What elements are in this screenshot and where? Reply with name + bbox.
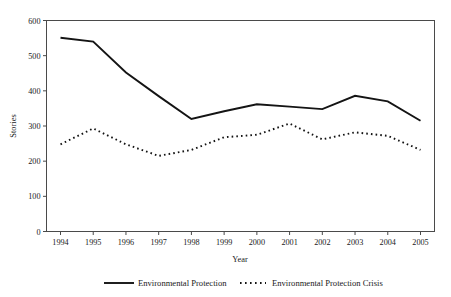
y-axis: 6005004003002001000 xyxy=(28,17,46,237)
x-axis-title: Year xyxy=(232,255,248,264)
series-environmental-protection-crisis xyxy=(61,124,421,156)
x-tick-label: 1995 xyxy=(85,238,101,247)
x-tick-label: 1994 xyxy=(52,238,68,247)
y-tick-label: 600 xyxy=(28,17,40,26)
y-tick-label: 0 xyxy=(36,228,40,237)
x-axis: 1994199519961997199819992000200120022003… xyxy=(52,232,428,247)
legend-label-0: Environmental Protection xyxy=(138,278,227,288)
x-tick-label: 1998 xyxy=(183,238,199,247)
y-tick-label: 400 xyxy=(28,87,40,96)
x-tick-label: 2003 xyxy=(347,238,363,247)
series-environmental-protection xyxy=(61,38,421,121)
line-chart: 6005004003002001000 19941995199619971998… xyxy=(0,0,451,297)
x-tick-label: 1997 xyxy=(150,238,166,247)
y-tick-label: 100 xyxy=(28,192,40,201)
y-tick-label: 200 xyxy=(28,157,40,166)
x-tick-label: 1996 xyxy=(118,238,134,247)
y-axis-title: Stories xyxy=(9,114,18,137)
chart-canvas: 6005004003002001000 19941995199619971998… xyxy=(0,0,451,297)
x-tick-label: 2005 xyxy=(412,238,428,247)
series-group xyxy=(61,38,421,156)
x-tick-label: 2004 xyxy=(380,238,396,247)
x-tick-label: 2001 xyxy=(281,238,297,247)
x-tick-label: 1999 xyxy=(216,238,232,247)
legend-label-1: Environmental Protection Crisis xyxy=(272,278,383,288)
y-tick-label: 300 xyxy=(28,122,40,131)
x-tick-label: 2002 xyxy=(314,238,330,247)
chart-legend: Environmental Protection Environmental P… xyxy=(104,278,383,288)
x-tick-label: 2000 xyxy=(249,238,265,247)
y-tick-label: 500 xyxy=(28,52,40,61)
